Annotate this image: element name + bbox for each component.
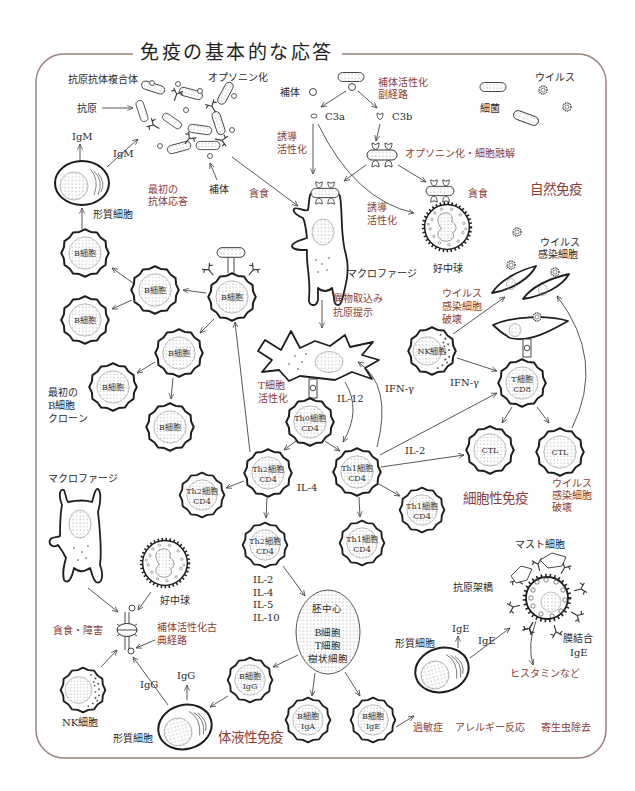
cytokine-il2: IL-2: [253, 574, 273, 585]
nk-destroy-line1: ウイルス: [442, 288, 482, 299]
opsonization-lysis-label: オプソニン化・細胞融解: [405, 147, 515, 159]
membrane-ige-line1: 膜結合: [563, 632, 593, 644]
first-clone-line3: クローン: [48, 413, 88, 424]
b-igg-label-2: IgG: [243, 682, 258, 691]
immune-complex-label: 抗原抗体複合体: [68, 73, 138, 85]
th1-bottom-label-2: CD4: [353, 545, 371, 554]
ctl-1-label: CTL: [482, 446, 499, 455]
phagocytosis-macrophage-label: 貪食: [249, 187, 269, 199]
virus-label: ウイルス: [535, 72, 575, 83]
igm-up-label: IgM: [72, 131, 93, 142]
plasma-cell-top: [55, 161, 109, 205]
cd8-label-1: T細胞: [511, 374, 532, 384]
germinal-to-iga-arrow: [312, 673, 315, 696]
b-ige-to-plasma-arrow: [396, 716, 414, 727]
neutrophil-bottom-label: 好中球: [160, 594, 190, 606]
induce-activate-1-line1: 誘導: [277, 130, 297, 142]
induce-activate-2-line2: 活性化: [367, 214, 397, 226]
virus-infected-cell-presenting: [493, 313, 568, 357]
macrophage-top-label: マクロファージ: [347, 268, 417, 279]
il4-label: IL-4: [297, 482, 317, 493]
complement-top-label: 補体: [280, 86, 300, 98]
germinal-b-cell: B細胞: [315, 627, 342, 638]
macrophage-bottom-label: マクロファージ: [48, 473, 118, 484]
ige-up-label: IgE: [452, 623, 470, 634]
b-clone-arrow: [171, 378, 173, 399]
b-iga-label-2: IgA: [301, 722, 315, 731]
b-clone-arrow: [112, 300, 132, 309]
membrane-ige-line2: IgE: [570, 647, 588, 658]
cytokine-il10: IL-10: [253, 612, 280, 623]
mast-to-histamine-arrow: [531, 621, 536, 665]
b-clone-arrow: [200, 319, 214, 333]
th2-to-th2-arrow: [226, 481, 244, 488]
il12-arrow: [343, 382, 353, 442]
b-cell-label: B細胞: [74, 248, 96, 258]
phagocytosis-neutrophil-label: 貪食: [468, 187, 488, 199]
humoral-immunity-title: 体液性免疫: [218, 729, 283, 745]
th0-to-th2-arrow: [284, 441, 296, 450]
antigen-crosslink-label: 抗原架橋: [453, 581, 493, 593]
ctl-to-virus-cell-arrow: [557, 296, 586, 428]
c3b-down-arrow: [376, 124, 380, 141]
igm-side-label: IgM: [113, 148, 134, 159]
germinal-center-label: 胚中心: [312, 603, 342, 614]
complement-icon: [349, 84, 356, 91]
virus-infected-label-2: 感染細胞: [538, 248, 578, 260]
ifng-right-label: IFN-γ: [450, 377, 479, 388]
virus-infected-label-1: ウイルス: [540, 237, 580, 248]
nk-destroy-line3: 破壊: [442, 313, 462, 325]
ifng-left-label: IFN-γ: [385, 383, 414, 394]
b-ige-label-2: IgE: [366, 722, 380, 731]
plasma-cell-top-label: 形質細胞: [93, 208, 133, 220]
th2-to-germinal-arrow: [283, 566, 305, 596]
b-cell-label: B細胞: [159, 422, 181, 432]
virus-icon: [539, 86, 547, 94]
th2-to-b-cell-arrow: [235, 322, 250, 452]
neutrophil-top: [424, 204, 471, 251]
first-clone-line2: B細胞: [48, 399, 75, 411]
induce-activate-1-line2: 活性化: [277, 143, 307, 155]
classical-pathway-line1: 補体活性化古: [157, 621, 217, 633]
c3b-label: C3b: [392, 111, 412, 122]
ctl-2-label: CTL: [552, 448, 569, 457]
b-igg-to-plasma-arrow: [210, 696, 228, 707]
macrophage-top: [292, 182, 348, 305]
virus-icon: [563, 103, 571, 111]
nk-cell-bottom: [61, 668, 106, 713]
th0-label-2: CD4: [301, 424, 319, 433]
neutrophil-top-label: 好中球: [433, 262, 463, 274]
c3b-icon: [377, 113, 383, 120]
alternative-pathway-label-1: 補体活性化: [378, 76, 428, 88]
th1-to-th1-arrow: [379, 484, 400, 496]
page-title: 免疫の基本的な応答: [140, 41, 334, 63]
neutrophil-bottom: [142, 540, 189, 587]
alternative-pathway-label-2: 副経路: [378, 88, 408, 100]
plasma-cell-right: [410, 642, 474, 698]
th0-label-1: Th0細胞: [294, 413, 326, 423]
outcome-parasite-removal: 寄生虫除去: [541, 721, 591, 733]
th2-to-th2-arrow: [266, 498, 267, 518]
mast-cell-label: マスト細胞: [515, 538, 565, 550]
to-c3b-arrow: [358, 91, 377, 108]
mast-cell: [507, 553, 587, 638]
th2-bottom-label-1: Th2細胞: [249, 536, 281, 546]
t-activation-line1: T細胞: [258, 379, 285, 391]
b-cell-label: B細胞: [74, 315, 96, 325]
antigen-label: 抗原: [77, 102, 97, 114]
nk-cell-bottom-label: NK細胞: [62, 716, 98, 728]
nk-to-cd8-arrow: [457, 358, 497, 371]
b-clone-arrow: [183, 290, 206, 293]
nk-to-antibody-arrow: [101, 650, 117, 667]
cd8-label-2: CD8: [513, 385, 531, 394]
ctl-destroy-line1: ウイルス: [552, 478, 592, 489]
igg-to-antibody-arrow: [133, 657, 168, 705]
antibody-complement-icon: [117, 605, 137, 654]
germinal-t-cell: T細胞: [315, 640, 341, 651]
neutrophil-to-antibody-arrow: [138, 592, 151, 610]
virus-infected-cell: [492, 261, 536, 293]
cytokine-il5: IL-5: [253, 599, 273, 610]
b-cell-label: B細胞: [221, 292, 243, 302]
bacterium-legend-icon: [480, 83, 506, 92]
b-iga-label-1: B細胞: [297, 711, 319, 721]
